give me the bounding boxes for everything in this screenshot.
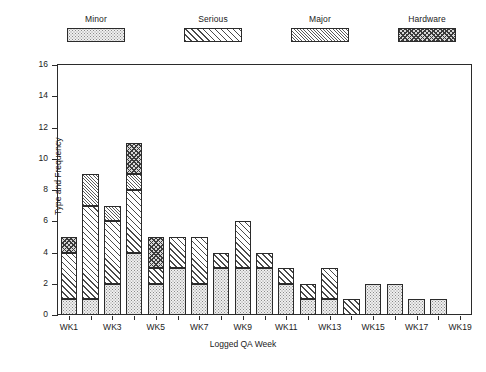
bar-stack-wk14[interactable] [343, 65, 360, 315]
y-tick-label: 16 [39, 59, 48, 70]
bar-stack-wk11[interactable] [278, 65, 295, 315]
bar-stack-wk10[interactable] [256, 65, 273, 315]
bar-stack-wk16[interactable] [387, 65, 404, 315]
y-tick-label: 14 [39, 90, 48, 101]
bar-segment-hardware[interactable] [61, 237, 78, 253]
x-axis-title: Logged QA Week [0, 339, 486, 350]
bar-segment-serious[interactable] [61, 253, 78, 300]
legend-item-major: Major [272, 14, 368, 42]
bar-segment-serious[interactable] [191, 237, 208, 284]
x-tick-mark [438, 316, 439, 320]
bar-stack-wk9[interactable] [235, 65, 252, 315]
bar-stack-wk17[interactable] [408, 65, 425, 315]
y-tick-mark [52, 96, 58, 97]
bar-stack-wk7[interactable] [191, 65, 208, 315]
bar-segment-serious[interactable] [213, 253, 230, 269]
y-tick-mark [52, 221, 58, 222]
bar-stack-wk6[interactable] [169, 65, 186, 315]
bar-segment-minor[interactable] [300, 299, 317, 315]
x-tick-mark [308, 316, 309, 320]
bar-segment-minor[interactable] [213, 268, 230, 315]
x-tick-mark [134, 316, 135, 320]
plot-area: Type and Frequency 0246810121416 WK1WK3W… [58, 65, 471, 315]
bar-segment-minor[interactable] [148, 284, 165, 315]
bar-segment-minor[interactable] [82, 299, 99, 315]
bar-segment-minor[interactable] [321, 299, 338, 315]
y-tick-label: 4 [43, 247, 48, 258]
bar-segment-serious[interactable] [256, 253, 273, 269]
bar-segment-hardware[interactable] [148, 237, 165, 268]
x-tick-label: WK19 [442, 322, 478, 333]
y-tick-8: 8 [42, 190, 58, 191]
y-tick-mark [52, 253, 58, 254]
legend-swatch-serious [184, 28, 242, 42]
bar-segment-minor[interactable] [191, 284, 208, 315]
y-tick-label: 0 [43, 309, 48, 320]
x-tick-mark [351, 316, 352, 320]
legend-item-minor: Minor [48, 14, 144, 42]
legend-item-serious: Serious [165, 14, 261, 42]
y-tick-label: 10 [39, 153, 48, 164]
y-tick-6: 6 [42, 221, 58, 222]
bar-segment-hardware[interactable] [126, 143, 143, 174]
bar-segment-serious[interactable] [278, 268, 295, 284]
x-tick-label: WK3 [94, 322, 130, 333]
x-tick-mark [417, 316, 418, 320]
x-tick-mark [286, 316, 287, 320]
y-tick-10: 10 [42, 159, 58, 160]
bar-segment-minor[interactable] [169, 268, 186, 315]
legend-swatch-hardware [398, 28, 456, 42]
bar-stack-wk15[interactable] [365, 65, 382, 315]
bar-segment-serious[interactable] [235, 221, 252, 268]
bar-segment-minor[interactable] [408, 299, 425, 315]
legend-item-hardware: Hardware [379, 14, 475, 42]
x-tick-mark [199, 316, 200, 320]
bar-segment-minor[interactable] [235, 268, 252, 315]
y-tick-14: 14 [42, 96, 58, 97]
x-tick-mark [330, 316, 331, 320]
x-tick-mark [156, 316, 157, 320]
bar-stack-wk2[interactable] [82, 65, 99, 315]
bar-segment-serious[interactable] [82, 206, 99, 300]
bar-stack-wk18[interactable] [430, 65, 447, 315]
bar-segment-minor[interactable] [256, 268, 273, 315]
bar-segment-minor[interactable] [387, 284, 404, 315]
y-tick-label: 2 [43, 278, 48, 289]
bar-segment-minor[interactable] [430, 299, 447, 315]
bar-segment-minor[interactable] [104, 284, 121, 315]
bar-segment-minor[interactable] [61, 299, 78, 315]
bar-segment-minor[interactable] [126, 253, 143, 316]
legend-label-serious: Serious [165, 14, 261, 25]
bar-segment-major[interactable] [104, 206, 121, 222]
bar-stack-wk12[interactable] [300, 65, 317, 315]
bar-segment-major[interactable] [82, 174, 99, 205]
y-tick-4: 4 [42, 253, 58, 254]
x-tick-label: WK1 [51, 322, 87, 333]
x-tick-label: WK13 [312, 322, 348, 333]
x-tick-label: WK9 [225, 322, 261, 333]
bar-stack-wk1[interactable] [61, 65, 78, 315]
bar-stack-wk5[interactable] [148, 65, 165, 315]
y-tick-label: 8 [43, 184, 48, 195]
bar-segment-serious[interactable] [126, 190, 143, 253]
bar-segment-serious[interactable] [169, 237, 186, 268]
chart-legend: Minor Serious Major Hardware [0, 0, 486, 58]
bar-stack-wk13[interactable] [321, 65, 338, 315]
bar-segment-serious[interactable] [104, 221, 121, 284]
x-tick-mark [112, 316, 113, 320]
x-tick-mark [221, 316, 222, 320]
bar-segment-serious[interactable] [343, 299, 360, 315]
bar-stack-wk4[interactable] [126, 65, 143, 315]
y-tick-mark [52, 315, 58, 316]
bar-segment-serious[interactable] [321, 268, 338, 299]
legend-swatch-major [291, 28, 349, 42]
bar-segment-minor[interactable] [365, 284, 382, 315]
bar-segment-minor[interactable] [278, 284, 295, 315]
bar-segment-major[interactable] [126, 174, 143, 190]
bar-stack-wk3[interactable] [104, 65, 121, 315]
bar-stack-wk8[interactable] [213, 65, 230, 315]
bar-segment-serious[interactable] [148, 268, 165, 284]
x-tick-mark [395, 316, 396, 320]
bar-segment-serious[interactable] [300, 284, 317, 300]
x-tick-mark [373, 316, 374, 320]
